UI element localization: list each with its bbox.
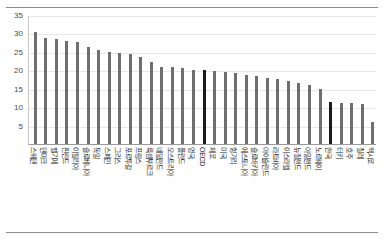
bar <box>308 85 311 144</box>
y-axis-tick-label: 15 <box>14 86 23 94</box>
x-axis-category-label: 에스토니아 <box>241 147 248 176</box>
x-axis-category-labels: 스웨덴덴마크벨기에핀란드이탈리아슬로베니아독일스페인그리스포르투갈프랑스룩셈부르… <box>29 147 377 233</box>
bar <box>181 68 184 144</box>
x-axis-category-label: 벨기에 <box>51 147 58 164</box>
x-axis-category-label: 칠레 <box>357 147 364 158</box>
x-axis-category-label: 그리스 <box>114 147 121 164</box>
x-axis-category-label: 헝가리 <box>230 147 237 164</box>
x-axis-category-label: 라트비아 <box>272 147 279 170</box>
x-axis-category-label: 한국 <box>325 147 332 158</box>
x-axis-category-label: 이스라엘 <box>283 147 290 170</box>
bar <box>287 81 290 144</box>
bar <box>319 89 322 144</box>
bar <box>234 73 237 144</box>
bar <box>192 70 195 144</box>
x-axis-category-label: 프랑스 <box>135 147 142 164</box>
bar <box>245 75 248 144</box>
y-axis-tick-label: 10 <box>14 104 23 112</box>
x-axis-category-label: 아이슬란드 <box>262 147 269 176</box>
bar <box>34 32 37 144</box>
x-axis-category-label: 영국 <box>188 147 195 158</box>
bar <box>118 53 121 144</box>
x-axis-category-label: 스페인 <box>104 147 111 164</box>
y-axis-tick-label: 25 <box>14 49 23 57</box>
x-axis-category-label: 오스트리아 <box>167 147 174 176</box>
bar <box>224 72 227 144</box>
bar <box>108 52 111 144</box>
x-axis-category-label: 멕시코 <box>367 147 374 164</box>
bar <box>44 38 47 144</box>
x-axis-category-label: 핀란드 <box>62 147 69 164</box>
x-axis-category-label: 뉴질랜드 <box>294 147 301 170</box>
bar <box>276 79 279 144</box>
x-axis-category-label: 슬로베니아 <box>83 147 90 176</box>
x-axis-category-label: 포르투갈 <box>125 147 132 170</box>
y-axis-tick-label: 30 <box>14 30 23 38</box>
top-rule <box>6 7 378 8</box>
bar <box>129 54 132 144</box>
bar <box>203 70 206 144</box>
bar <box>297 83 300 144</box>
x-axis-category-label: 호주 <box>346 147 353 158</box>
x-axis-category-label: 터키 <box>336 147 343 158</box>
bar <box>150 62 153 144</box>
x-axis-category-label: 스웨덴 <box>30 147 37 164</box>
x-axis-category-label: 이탈리아 <box>72 147 79 170</box>
y-axis-tick-label: 5 <box>19 123 23 131</box>
bar <box>371 122 374 144</box>
bar <box>76 42 79 144</box>
bar <box>87 47 90 144</box>
bar <box>350 103 353 144</box>
x-axis-category-label: 미국 <box>220 147 227 158</box>
bar <box>266 78 269 144</box>
bar <box>160 67 163 144</box>
bar <box>55 39 58 144</box>
x-axis-category-label: 슬로바키아 <box>251 147 258 176</box>
x-axis-category-label: 독일 <box>93 147 100 158</box>
bar <box>97 50 100 144</box>
y-axis-tick-labels: 5101520253035 <box>0 16 26 145</box>
x-axis-category-label: 폴란드 <box>178 147 185 164</box>
bar <box>361 104 364 144</box>
bar <box>213 71 216 144</box>
plot-area <box>28 16 376 145</box>
bar <box>255 76 258 144</box>
bar <box>329 102 332 144</box>
bar-chart-figure: 5101520253035 스웨덴덴마크벨기에핀란드이탈리아슬로베니아독일스페인… <box>0 0 384 239</box>
bar <box>171 67 174 144</box>
bar <box>340 103 343 144</box>
y-axis-tick-label: 20 <box>14 67 23 75</box>
x-axis-category-label: 노르웨이 <box>315 147 322 170</box>
bar <box>65 41 68 144</box>
x-axis-category-label: 덴마크 <box>40 147 47 164</box>
x-axis-category-label: 네덜란드 <box>156 147 163 170</box>
x-axis-category-label: 아일랜드 <box>304 147 311 170</box>
x-axis-category-label: OECD <box>199 147 206 166</box>
x-axis-category-label: 룩셈부르크 <box>146 147 153 176</box>
bar <box>139 57 142 144</box>
bar-series <box>30 16 376 144</box>
x-axis-category-label: 체코 <box>209 147 216 158</box>
y-axis-tick-label: 35 <box>14 12 23 20</box>
